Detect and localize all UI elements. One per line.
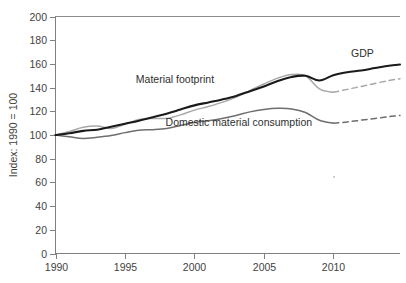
y-tick-label: 140 — [29, 82, 47, 94]
y-tick-label: 160 — [29, 58, 47, 70]
y-tick-label: 60 — [35, 176, 47, 188]
scan-speck — [333, 176, 335, 178]
y-tick-label: 120 — [29, 105, 47, 117]
y-tick-label: 180 — [29, 34, 47, 46]
x-tick-label: 2010 — [322, 261, 346, 273]
x-tick-label: 2000 — [183, 261, 207, 273]
chart-background — [0, 0, 406, 283]
chart-canvas: 020406080100120140160180200 199019952000… — [0, 0, 406, 283]
x-tick-label: 1995 — [114, 261, 138, 273]
series-annotation-material-footprint: Material footprint — [136, 73, 214, 85]
series-annotation-domestic-material-consumption: Domestic material consumption — [166, 116, 313, 128]
series-annotation-gdp: GDP — [351, 47, 374, 59]
y-tick-label: 20 — [35, 224, 47, 236]
chart-figure: 020406080100120140160180200 199019952000… — [0, 0, 406, 283]
x-tick-label: 1990 — [45, 261, 69, 273]
x-tick-label: 2005 — [253, 261, 277, 273]
y-tick-label: 200 — [29, 11, 47, 23]
y-tick-label: 40 — [35, 200, 47, 212]
y-tick-label: 100 — [29, 129, 47, 141]
y-tick-label: 80 — [35, 153, 47, 165]
y-axis-title: Index: 1990 = 100 — [7, 93, 19, 178]
y-tick-label: 0 — [41, 248, 47, 260]
